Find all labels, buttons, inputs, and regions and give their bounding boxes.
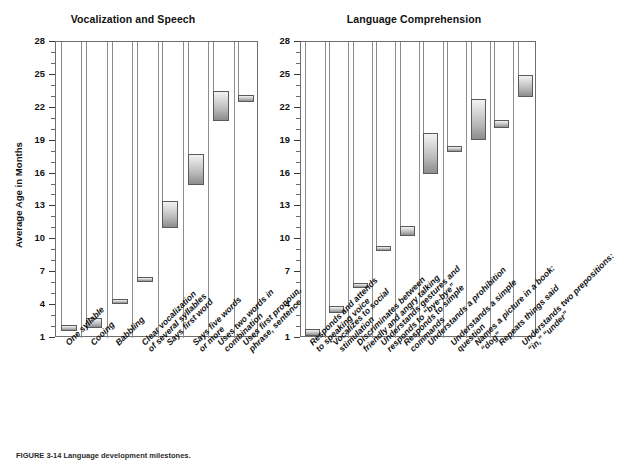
category-separator (158, 42, 159, 338)
category-separator (325, 42, 326, 338)
y-minor-tick-right (296, 227, 300, 228)
y-tick-label-left: 7 (21, 266, 45, 275)
y-minor-tick-right (296, 162, 300, 163)
y-minor-tick-right (296, 118, 300, 119)
drop-line (447, 42, 448, 146)
y-tick-right (294, 41, 300, 42)
chart-title-right: Language Comprehension (274, 13, 554, 25)
y-minor-tick-right (296, 52, 300, 53)
y-minor-tick-right (296, 85, 300, 86)
y-tick-right (294, 140, 300, 141)
y-minor-tick-left (51, 194, 55, 195)
range-bar (518, 75, 533, 97)
y-tick-left (49, 173, 55, 174)
category-separator (234, 42, 235, 338)
y-minor-tick-left (51, 326, 55, 327)
range-bar (162, 201, 178, 228)
y-minor-tick-right (296, 260, 300, 261)
drop-line (238, 42, 239, 95)
y-tick-label-left: 25 (21, 69, 45, 78)
category-separator (81, 42, 82, 338)
y-tick-left (49, 140, 55, 141)
y-tick-label-left: 22 (21, 102, 45, 111)
drop-line (400, 42, 401, 226)
chart-title-left: Vocalization and Speech (8, 13, 258, 25)
category-separator (348, 42, 349, 338)
y-minor-tick-right (296, 249, 300, 250)
y-minor-tick-left (51, 96, 55, 97)
figure-caption: FIGURE 3-14 Language development milesto… (16, 451, 556, 460)
y-minor-tick-left (51, 118, 55, 119)
y-minor-tick-right (296, 315, 300, 316)
y-tick-right (294, 205, 300, 206)
drop-line (329, 42, 330, 306)
drop-line (376, 42, 377, 246)
y-tick-right (294, 337, 300, 338)
y-tick-label-left: 28 (21, 36, 45, 45)
y-tick-left (49, 41, 55, 42)
y-minor-tick-right (296, 326, 300, 327)
y-tick-label-right: 7 (266, 266, 290, 275)
range-bar (238, 95, 254, 103)
y-tick-label-right: 28 (266, 36, 290, 45)
y-tick-label-left: 19 (21, 135, 45, 144)
y-minor-tick-right (296, 216, 300, 217)
y-tick-label-left: 16 (21, 168, 45, 177)
range-bar (137, 277, 153, 282)
y-tick-label-left: 4 (21, 299, 45, 308)
category-separator (490, 42, 491, 338)
y-minor-tick-right (296, 63, 300, 64)
y-minor-tick-left (51, 227, 55, 228)
y-minor-tick-right (296, 293, 300, 294)
y-tick-label-right: 16 (266, 168, 290, 177)
y-tick-right (294, 271, 300, 272)
y-tick-label-left: 1 (21, 332, 45, 341)
category-separator (132, 42, 133, 338)
y-minor-tick-left (51, 52, 55, 53)
drop-line (518, 42, 519, 75)
y-minor-tick-left (51, 282, 55, 283)
range-bar (400, 226, 415, 236)
y-tick-right (294, 107, 300, 108)
y-minor-tick-left (51, 85, 55, 86)
category-separator (183, 42, 184, 338)
y-tick-left (49, 304, 55, 305)
y-tick-left (49, 337, 55, 338)
drop-line (423, 42, 424, 133)
y-tick-label-right: 10 (266, 233, 290, 242)
y-tick-right (294, 173, 300, 174)
range-bar (376, 246, 391, 251)
y-minor-tick-left (51, 315, 55, 316)
y-minor-tick-right (296, 282, 300, 283)
y-tick-label-right: 1 (266, 332, 290, 341)
drop-line (162, 42, 163, 201)
y-tick-label-right: 22 (266, 102, 290, 111)
y-minor-tick-left (51, 129, 55, 130)
y-tick-left (49, 74, 55, 75)
y-minor-tick-right (296, 129, 300, 130)
y-minor-tick-left (51, 249, 55, 250)
y-tick-right (294, 238, 300, 239)
y-tick-left (49, 271, 55, 272)
y-minor-tick-right (296, 184, 300, 185)
y-minor-tick-left (51, 151, 55, 152)
drop-line (353, 42, 354, 283)
y-tick-right (294, 74, 300, 75)
y-tick-label-left: 13 (21, 200, 45, 209)
y-tick-left (49, 205, 55, 206)
y-minor-tick-left (51, 162, 55, 163)
plot-area-left (55, 41, 258, 337)
drop-line (213, 42, 214, 91)
y-minor-tick-right (296, 194, 300, 195)
y-minor-tick-left (51, 184, 55, 185)
drop-line (471, 42, 472, 99)
y-tick-left (49, 107, 55, 108)
range-bar (112, 299, 128, 304)
range-bar (471, 99, 486, 140)
category-separator (107, 42, 108, 338)
y-minor-tick-left (51, 293, 55, 294)
y-tick-label-right: 25 (266, 69, 290, 78)
range-bar (188, 154, 204, 185)
drop-line (188, 42, 189, 154)
category-separator (395, 42, 396, 338)
